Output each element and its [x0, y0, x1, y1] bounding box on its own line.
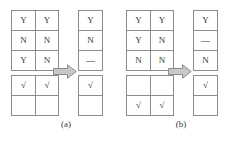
- right-block-arrow-icon: [168, 64, 192, 79]
- table-row: Y N: [12, 50, 58, 70]
- panel-b-caption: (b): [115, 119, 229, 129]
- table-row: √: [79, 76, 102, 95]
- table-row: Y: [79, 11, 102, 30]
- grid-cell-check: [79, 96, 102, 115]
- table-row: Y Y: [127, 11, 173, 30]
- grid-cell: Y: [127, 11, 150, 30]
- panel-b: Y Y Y N N N √ √: [115, 0, 229, 141]
- grid-cell-check: √: [127, 96, 150, 115]
- table-row: √: [194, 76, 217, 95]
- panel-a-output-label-grid: Y N —: [78, 10, 103, 71]
- panel-a: Y Y N N Y N √ √: [0, 0, 114, 141]
- grid-cell: N: [150, 31, 173, 50]
- table-row: [12, 95, 58, 115]
- grid-cell: —: [194, 31, 217, 50]
- table-row: √ √: [127, 95, 173, 115]
- grid-cell: N: [12, 31, 35, 50]
- grid-cell: —: [79, 51, 102, 70]
- grid-cell: N: [79, 31, 102, 50]
- grid-cell-check: √: [79, 76, 102, 95]
- table-row: N N: [12, 30, 58, 50]
- grid-cell-check: √: [12, 76, 35, 95]
- table-row: —: [79, 50, 102, 70]
- table-row: [127, 76, 173, 95]
- table-row: Y Y: [12, 11, 58, 30]
- grid-cell: Y: [79, 11, 102, 30]
- table-row: [194, 95, 217, 115]
- grid-cell-check: [35, 96, 58, 115]
- grid-cell: Y: [12, 51, 35, 70]
- grid-cell: N: [35, 31, 58, 50]
- grid-cell: N: [127, 51, 150, 70]
- grid-cell-check: √: [194, 76, 217, 95]
- caption-text: (b): [158, 119, 187, 129]
- grid-cell-check: [12, 96, 35, 115]
- figure-container: Y Y N N Y N √ √: [0, 0, 229, 141]
- grid-cell-check: √: [150, 96, 173, 115]
- grid-cell: Y: [35, 11, 58, 30]
- panel-b-input-label-grid: Y Y Y N N N: [126, 10, 174, 71]
- table-row: Y N: [127, 30, 173, 50]
- grid-cell-check: [127, 76, 150, 95]
- caption-text: (a): [43, 119, 71, 129]
- table-row: —: [194, 30, 217, 50]
- table-row: N: [79, 30, 102, 50]
- grid-cell: Y: [12, 11, 35, 30]
- table-row: N N: [127, 50, 173, 70]
- panel-b-output-label-grid: Y — N: [193, 10, 218, 71]
- panel-b-input-mark-grid: √ √: [126, 75, 174, 116]
- panel-a-input-label-grid: Y Y N N Y N: [11, 10, 59, 71]
- panel-a-output-mark-grid: √: [78, 75, 103, 116]
- panel-b-output-mark-grid: √: [193, 75, 218, 116]
- grid-cell-check: [194, 96, 217, 115]
- panel-a-caption: (a): [0, 119, 114, 129]
- grid-cell: Y: [194, 11, 217, 30]
- table-row: [79, 95, 102, 115]
- right-block-arrow-icon: [53, 64, 77, 79]
- table-row: N: [194, 50, 217, 70]
- grid-cell: N: [194, 51, 217, 70]
- table-row: Y: [194, 11, 217, 30]
- table-row: √ √: [12, 76, 58, 95]
- panel-a-input-mark-grid: √ √: [11, 75, 59, 116]
- grid-cell: Y: [127, 31, 150, 50]
- grid-cell: Y: [150, 11, 173, 30]
